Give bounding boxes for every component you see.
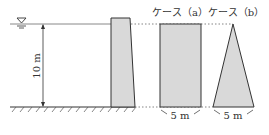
case-b-triangle — [213, 24, 254, 107]
case-a-width-label: 5 m — [170, 110, 190, 121]
depth-label: 10 m — [31, 53, 42, 79]
dam-diagram: 10 m ケース（a） 5 m ケース（b） 5 m — [0, 0, 269, 135]
dam-wall — [111, 18, 135, 107]
case-a-label: ケース（a） — [152, 7, 208, 18]
case-b-width-label: 5 m — [223, 110, 243, 121]
ground — [10, 107, 136, 112]
water-surface-icon — [17, 18, 26, 28]
case-a-rectangle — [160, 24, 201, 107]
case-b-label: ケース（b） — [208, 7, 264, 18]
